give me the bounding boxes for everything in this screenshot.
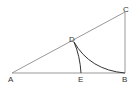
geometry-diagram: A B C D E [0,0,135,89]
label-d: D [69,35,75,44]
arc-db [74,42,125,73]
label-b: B [122,75,127,84]
label-a: A [8,75,14,84]
label-c: C [123,5,129,14]
label-e: E [78,75,83,84]
